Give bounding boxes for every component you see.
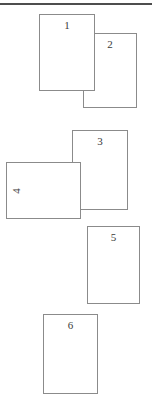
card-5-number: 5 — [88, 231, 139, 243]
card-3-number: 3 — [73, 135, 127, 147]
card-6: 6 — [43, 314, 98, 394]
card-4: 4 — [6, 162, 81, 219]
card-6-number: 6 — [44, 319, 97, 331]
card-5: 5 — [87, 226, 140, 304]
overlapping-cards-figure: 123456 — [0, 0, 152, 409]
cards-layer: 123456 — [0, 0, 152, 409]
card-1-number: 1 — [40, 19, 94, 31]
card-4-number: 4 — [10, 188, 22, 194]
card-1: 1 — [39, 14, 95, 91]
